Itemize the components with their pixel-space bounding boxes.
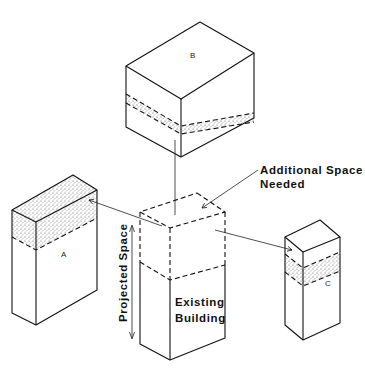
existing-building-label-line2: Building [175, 312, 226, 324]
additional-space-label-line1: Additional Space [260, 164, 363, 176]
building-expansion-diagram: B A Existing Building C [0, 0, 365, 371]
box-a-label: A [61, 250, 67, 259]
box-b: B [126, 22, 254, 157]
additional-space-label-line2: Needed [260, 178, 305, 190]
additional-space-annotation: Additional Space Needed [202, 164, 363, 208]
existing-building-label-line1: Existing [175, 296, 225, 308]
connector-a [89, 200, 162, 226]
projected-space-label: Projected Space [117, 224, 129, 322]
connector-c [215, 230, 292, 250]
existing-building: Existing Building [140, 193, 226, 360]
projected-space-annotation: Projected Space [117, 224, 135, 339]
box-a: A [12, 175, 97, 325]
box-c-label: C [325, 279, 331, 288]
box-c: C [285, 220, 340, 340]
box-b-label: B [190, 51, 195, 60]
